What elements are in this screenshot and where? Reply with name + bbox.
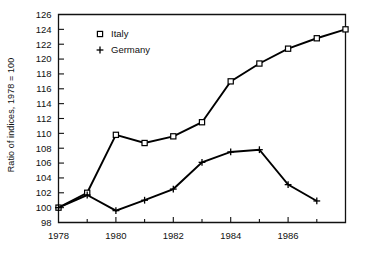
y-tick-label: 124 [36,24,52,35]
y-tick-label: 116 [36,83,51,94]
series-layer [55,27,348,214]
y-tick-label: 102 [36,187,52,198]
data-point-italy [314,36,319,41]
y-tick-label: 108 [36,143,52,154]
chart-legend: ItalyGermany [97,28,151,55]
series-germany [55,146,320,214]
data-point-italy [343,27,348,32]
x-axis-tick-labels: 19781980198219841986 [48,230,299,241]
y-tick-label: 110 [36,128,51,139]
data-point-germany [141,197,148,204]
legend-item-germany: Germany [97,44,151,55]
y-tick-label: 122 [36,39,52,50]
series-line-germany [59,150,317,211]
data-point-italy [257,61,262,66]
y-tick-label: 120 [36,53,52,64]
y-tick-label: 106 [36,157,52,168]
data-point-italy [286,46,291,51]
data-point-italy [142,140,147,145]
y-axis-tick-marks [59,29,65,207]
y-tick-label: 114 [36,98,51,109]
y-tick-label: 112 [36,113,51,124]
y-tick-label: 104 [36,172,52,183]
data-point-italy [199,120,204,125]
data-point-italy [171,134,176,139]
x-tick-label: 1984 [220,230,241,241]
x-tick-label: 1982 [163,230,184,241]
chart-figure: Ratio of indices, 1978 = 100 98100102104… [0,0,367,263]
plot-frame [59,15,346,223]
data-point-germany [113,207,120,214]
legend-marker-italy [97,31,102,36]
data-point-germany [227,149,234,156]
legend-item-italy: Italy [97,28,128,39]
x-axis-tick-marks [87,217,317,223]
y-axis-tick-labels: 9810010210410610811011211411611812012212… [36,9,52,228]
x-tick-label: 1980 [105,230,126,241]
x-tick-label: 1986 [278,230,299,241]
series-italy [56,27,348,210]
legend-label-italy: Italy [111,28,129,39]
y-tick-label: 98 [41,217,52,228]
plot-border [59,15,346,223]
line-chart-plot: 9810010210410610811011211411611812012212… [0,0,367,263]
y-tick-label: 118 [36,68,51,79]
series-line-italy [59,29,346,207]
x-tick-label: 1978 [48,230,69,241]
y-tick-label: 100 [36,202,52,213]
legend-label-germany: Germany [111,44,150,55]
data-point-italy [113,132,118,137]
data-point-italy [228,79,233,84]
legend-marker-germany [97,47,104,54]
y-tick-label: 126 [36,9,52,20]
